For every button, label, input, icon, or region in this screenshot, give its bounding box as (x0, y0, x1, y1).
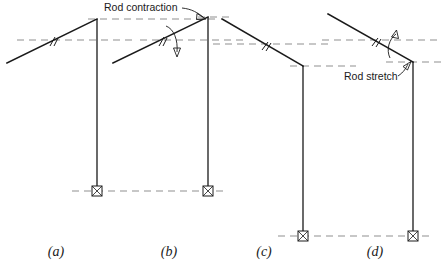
pin-support-a (92, 186, 102, 196)
panel-b (113, 17, 213, 196)
figure-container: Rod contraction Rod stretch (a) (b) (c) … (0, 0, 442, 265)
panel-label-a: (a) (48, 244, 65, 260)
deformation-diagram-svg: Rod contraction Rod stretch (a) (b) (c) … (0, 0, 442, 265)
annotation-rod-stretch: Rod stretch (344, 62, 411, 83)
rod-tick-b (159, 37, 167, 46)
rod-a (7, 19, 97, 63)
panel-label-c: (c) (256, 244, 272, 260)
panel-a (7, 19, 102, 196)
panel-label-b: (b) (161, 244, 178, 260)
panel-label-d: (d) (367, 244, 384, 260)
panel-c (222, 19, 308, 241)
pin-support-c (298, 231, 308, 241)
rod-c (222, 19, 303, 66)
panel-d (328, 14, 418, 241)
reference-lines-group (17, 17, 442, 236)
annotation-rod-contraction: Rod contraction (104, 1, 206, 20)
rod-contraction-label: Rod contraction (104, 1, 178, 13)
rod-d (328, 14, 413, 62)
pin-support-d (408, 231, 418, 241)
rod-stretch-label: Rod stretch (344, 70, 398, 82)
pin-support-b (203, 186, 213, 196)
panel-labels-group: (a) (b) (c) (d) (48, 244, 384, 260)
rod-stretch-leader (398, 64, 408, 76)
